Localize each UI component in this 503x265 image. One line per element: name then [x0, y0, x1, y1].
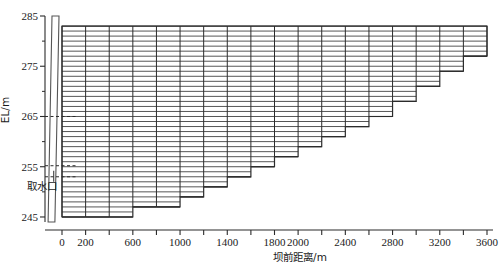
x-axis-title: 坝前距离/m — [273, 251, 327, 263]
x-axis-tick-label: 1400 — [216, 236, 239, 248]
grid-column-layers — [416, 26, 440, 86]
x-axis-tick-label: 1800 — [264, 236, 287, 248]
x-axis-tick-label: 2000 — [287, 236, 310, 248]
y-axis-tick-label: 275 — [22, 60, 39, 72]
grid-column-layers — [322, 26, 346, 137]
grid-column-layers — [345, 26, 369, 126]
y-axis-tick-label: 255 — [22, 161, 39, 173]
chart-container: 245255265275285 020060010001400180020002… — [0, 0, 503, 265]
x-axis-tick-label: 2800 — [382, 236, 405, 248]
grid-column-layers — [393, 26, 417, 101]
grid-column-layers — [440, 26, 464, 71]
grid-column-layers — [204, 26, 228, 187]
x-axis-tick-label: 2400 — [334, 236, 357, 248]
x-axis: 020060010001400180020002400280032003600 — [45, 230, 499, 248]
y-axis-tick-label: 285 — [22, 10, 39, 22]
x-axis-tick-label: 200 — [77, 236, 94, 248]
reservoir-grid-chart: 245255265275285 020060010001400180020002… — [0, 0, 503, 265]
x-axis-tick-label: 600 — [125, 236, 142, 248]
x-axis-tick-label: 3200 — [429, 236, 452, 248]
grid-column-layers — [369, 26, 393, 116]
grid-column-layers — [109, 26, 133, 217]
y-axis-tick-label: 245 — [22, 211, 39, 223]
grid-column-layers — [180, 26, 204, 197]
intake-label: 取水口 — [27, 180, 57, 192]
grid-column-layers — [86, 26, 110, 217]
grid-column-layers — [227, 26, 251, 177]
grid-column-layers — [463, 26, 487, 56]
y-axis-tick-label: 265 — [22, 110, 39, 122]
grid-column-layers — [156, 26, 180, 207]
x-axis-tick-label: 0 — [59, 236, 65, 248]
grid-column-layers — [298, 26, 322, 147]
grid-column-layers — [275, 26, 299, 157]
x-axis-tick-label: 3600 — [476, 236, 499, 248]
y-axis-title: EL/m — [0, 97, 11, 123]
grid-column-layers — [133, 26, 157, 207]
grid-column-layers — [62, 26, 86, 217]
x-axis-tick-label: 1000 — [169, 236, 192, 248]
grid-column-layers — [251, 26, 275, 167]
